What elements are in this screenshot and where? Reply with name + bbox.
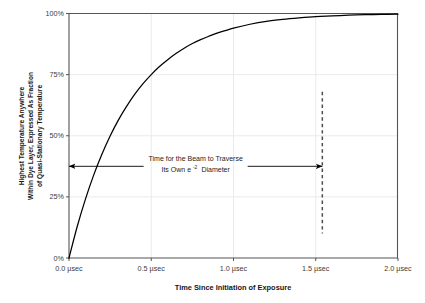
y-tick-label: 75% — [50, 70, 65, 79]
x-tick-label: 0.5 µsec — [138, 264, 166, 273]
annotation-line-1: Time for the Beam to Traverse — [149, 155, 243, 162]
annotation-line-2-superscript: -2 — [193, 165, 198, 170]
y-tick-label: 25% — [50, 192, 65, 201]
annotation-line-2-prefix: Its Own e — [161, 166, 191, 173]
y-axis-title: Highest Temperature Anywhere Within Dye … — [18, 72, 44, 200]
x-tick-label: 1.0 µsec — [220, 264, 248, 273]
y-tick-label: 0% — [54, 254, 65, 263]
y-axis-title-line-2: Within Dye Layer, Expressed As Fraction — [27, 72, 35, 200]
x-axis-title: Time Since Initiation of Exposure — [175, 283, 292, 292]
y-axis-title-line-3: of Quasi-Stationary Temperature — [36, 85, 44, 187]
y-tick-label: 100% — [46, 9, 65, 18]
annotation-line-2-suffix: Diameter — [201, 166, 230, 173]
x-tick-label: 1.5 µsec — [302, 264, 330, 273]
y-tick-label: 50% — [50, 131, 65, 140]
temperature-fraction-line-chart: 0%25%50%75%100% 0.0 µsec0.5 µsec1.0 µsec… — [0, 0, 425, 303]
x-tick-label: 2.0 µsec — [384, 264, 412, 273]
chart-figure: 0%25%50%75%100% 0.0 µsec0.5 µsec1.0 µsec… — [0, 0, 425, 303]
x-tick-label: 0.0 µsec — [55, 264, 83, 273]
y-axis-title-line-1: Highest Temperature Anywhere — [18, 86, 26, 185]
